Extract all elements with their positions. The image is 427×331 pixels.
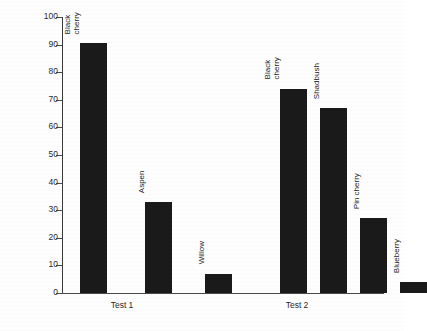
tick-label: 30 [32, 204, 58, 215]
bar-label: Shadbush [312, 63, 321, 99]
tick-label: 100 [32, 11, 58, 22]
bar-label: Pin cherry [352, 173, 361, 209]
bar-label-line1: Pin cherry [352, 173, 361, 209]
bar-label: Blackcherry [63, 12, 81, 34]
bar-label: Aspen [137, 170, 146, 193]
bar-label: Willow [197, 242, 206, 265]
bar-label-line1: Blueberry [392, 239, 401, 273]
tick-label: 40 [32, 177, 58, 188]
bar-label-line1: Willow [197, 242, 206, 265]
bar [280, 89, 307, 293]
tick-label: 70 [32, 94, 58, 105]
bar-label-line1: Aspen [137, 170, 146, 193]
bar [320, 108, 347, 293]
tick-label: 50 [32, 149, 58, 160]
group-label-test-1: Test 1 [82, 300, 162, 310]
tick-label: 90 [32, 39, 58, 50]
bar-label: Blueberry [392, 239, 401, 273]
bar [80, 43, 107, 293]
x-axis-line [62, 293, 384, 294]
y-axis-line [62, 17, 63, 294]
tick-label: 20 [32, 232, 58, 243]
bar-label-line1: Shadbush [312, 63, 321, 99]
bar-label: Blackcherry [263, 58, 281, 80]
bar-label-line2: cherry [72, 12, 81, 34]
plot-area: 0102030405060708090100 BlackcherryAspenW… [62, 17, 384, 294]
tick-label: 80 [32, 66, 58, 77]
bar [145, 202, 172, 293]
group-label-test-2: Test 2 [257, 300, 337, 310]
tick-label: 60 [32, 121, 58, 132]
bar-label-line1: Black [263, 60, 272, 80]
tick-label: 10 [32, 259, 58, 270]
bar [400, 282, 427, 293]
bar [360, 218, 387, 293]
bar-label-line1: Black [63, 15, 72, 35]
bar-label-line2: cherry [272, 58, 281, 80]
bar [205, 274, 232, 293]
tick-label: 0 [32, 287, 58, 298]
